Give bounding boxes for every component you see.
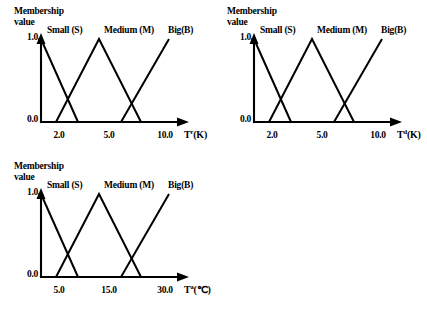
figure-sheet: Membership value Small (S) Medium (M) Bi…: [0, 0, 427, 311]
x-axis-arrowhead: [177, 273, 189, 282]
curve-small: [41, 39, 78, 122]
plot-area: [213, 0, 427, 156]
chart-membership-td: Membership value Small (S) Medium (M) Bi…: [213, 0, 427, 156]
plot-area: [0, 155, 214, 311]
curve-small: [254, 39, 291, 122]
x-axis-arrowhead: [390, 118, 402, 127]
chart-membership-ta: Membership value Small (S) Medium (M) Bi…: [0, 155, 214, 311]
chart-membership-tr: Membership value Small (S) Medium (M) Bi…: [0, 0, 214, 156]
curve-small: [41, 194, 78, 277]
x-axis-arrowhead: [177, 118, 189, 127]
curve-big: [334, 39, 382, 122]
curve-big: [121, 194, 169, 277]
curve-big: [121, 39, 169, 122]
plot-area: [0, 0, 214, 156]
